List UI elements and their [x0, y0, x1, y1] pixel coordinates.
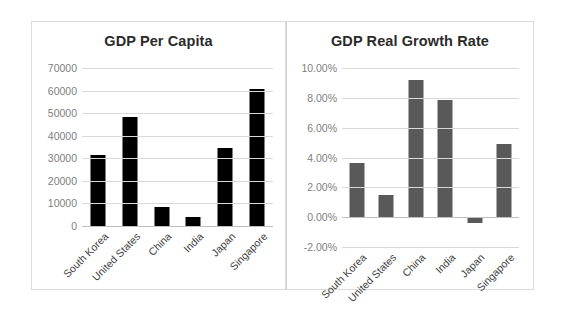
bar	[90, 155, 105, 226]
bar-slot	[209, 68, 241, 226]
y-axis-tick-label: 0	[71, 220, 77, 232]
y-axis-tick-label: -2.00%	[304, 241, 337, 253]
gridline	[82, 91, 273, 92]
bar	[122, 117, 137, 226]
bar-slot	[241, 68, 273, 226]
y-axis-tick-label: 70000	[48, 62, 77, 74]
gridline	[342, 247, 519, 248]
chart-title-right: GDP Real Growth Rate	[287, 33, 533, 49]
gridline	[342, 128, 519, 129]
x-axis-labels-left: South KoreaUnited StatesChinaIndiaJapanS…	[82, 226, 273, 296]
gridline	[82, 181, 273, 182]
plot-area-right: South KoreaUnited StatesChinaIndiaJapanS…	[342, 68, 519, 247]
bar-slot	[114, 68, 146, 226]
chart-panel-gdp-per-capita: GDP Per Capita South KoreaUnited StatesC…	[31, 21, 286, 290]
gridline	[342, 158, 519, 159]
y-axis-tick-label: 30000	[48, 152, 77, 164]
y-axis-tick-label: 40000	[48, 130, 77, 142]
gridline	[342, 98, 519, 99]
y-axis-tick-label: 2.00%	[307, 181, 337, 193]
bar	[497, 144, 512, 217]
y-axis-tick-label: 6.00%	[307, 122, 337, 134]
bar	[218, 148, 233, 226]
x-axis-tick-label: China	[400, 251, 428, 279]
x-axis-labels-right: South KoreaUnited StatesChinaIndiaJapanS…	[342, 247, 519, 312]
bars-left	[82, 68, 273, 226]
gridline	[82, 158, 273, 159]
y-axis-tick-label: 10.00%	[301, 62, 337, 74]
gridline	[82, 113, 273, 114]
bar	[349, 163, 364, 217]
x-axis-tick-label: China	[146, 230, 174, 258]
bar-slot	[82, 68, 114, 226]
figure-root: GDP Per Capita South KoreaUnited StatesC…	[0, 0, 570, 312]
gridline	[82, 136, 273, 137]
x-axis-tick-label: India	[181, 230, 206, 255]
y-axis-tick-label: 8.00%	[307, 92, 337, 104]
y-axis-tick-label: 60000	[48, 85, 77, 97]
chart-title-left: GDP Per Capita	[32, 33, 285, 49]
x-axis-tick-label: Japan	[209, 230, 238, 259]
y-axis-tick-label: 50000	[48, 107, 77, 119]
x-axis-tick-label: India	[433, 251, 458, 276]
y-axis-tick-label: 0.00%	[307, 211, 337, 223]
y-axis-tick-label: 4.00%	[307, 152, 337, 164]
gridline	[342, 68, 519, 69]
bar	[408, 80, 423, 217]
bar-slot	[146, 68, 178, 226]
plot-area-left: South KoreaUnited StatesChinaIndiaJapanS…	[82, 68, 273, 226]
y-axis-tick-label: 20000	[48, 175, 77, 187]
chart-panel-gdp-real-growth-rate: GDP Real Growth Rate South KoreaUnited S…	[286, 21, 534, 290]
bar	[186, 217, 201, 226]
gridline	[82, 68, 273, 69]
bar-slot	[178, 68, 210, 226]
y-axis-tick-label: 10000	[48, 197, 77, 209]
gridline	[342, 187, 519, 188]
gridline	[82, 203, 273, 204]
bar	[438, 100, 453, 217]
gridline	[82, 226, 273, 227]
gridline	[342, 217, 519, 218]
bar	[379, 195, 394, 217]
chart-panels: GDP Per Capita South KoreaUnited StatesC…	[31, 21, 534, 290]
bar	[154, 207, 169, 226]
